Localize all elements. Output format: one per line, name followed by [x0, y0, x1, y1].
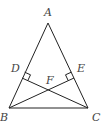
label-d: D [10, 62, 20, 75]
triangle-diagram: A B C D E F [0, 0, 103, 125]
segment-cd [22, 78, 88, 108]
label-e: E [76, 62, 85, 75]
label-c: C [92, 111, 101, 124]
segment-be [9, 78, 74, 108]
label-b: B [0, 111, 8, 124]
label-f: F [45, 74, 54, 87]
label-a: A [43, 6, 52, 19]
